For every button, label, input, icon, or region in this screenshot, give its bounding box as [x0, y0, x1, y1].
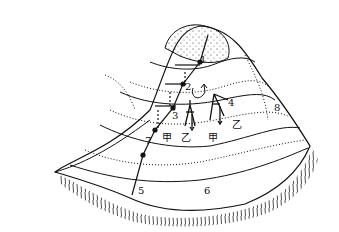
point-label-5: 5	[138, 186, 144, 196]
point-label-8: 8	[274, 103, 280, 113]
label-yi-2: 乙	[232, 120, 242, 130]
hill-contour-diagram	[0, 0, 339, 232]
label-yi-1: 乙	[181, 133, 191, 143]
point-label-3: 3	[172, 111, 178, 121]
point-label-6: 6	[204, 186, 210, 196]
point-label-7: 7	[145, 136, 151, 146]
label-jia-2: 甲	[208, 133, 218, 143]
point-label-4: 4	[228, 98, 234, 108]
point-label-1: 1	[200, 55, 206, 65]
label-jia-1: 甲	[162, 133, 172, 143]
point-label-2: 2	[185, 82, 191, 92]
